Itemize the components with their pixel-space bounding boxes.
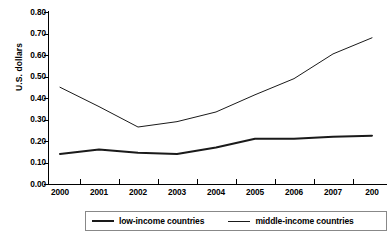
x-axis-tick-label: 2006 [274,187,314,198]
x-axis-tick-label: 2007 [313,187,353,198]
y-axis-tick-label: 0.50 [14,72,46,81]
x-axis-tick-label: 2004 [196,187,236,198]
series-line [60,136,372,154]
series-line [60,38,372,127]
x-axis-tick-label: 2000 [40,187,80,198]
x-axis-tick-label: 2001 [79,187,119,198]
y-axis-tick-label: 0.40 [14,94,46,103]
x-axis-tick-label: 200 [352,187,387,198]
legend-line-swatch [228,221,250,222]
y-axis-tick-label: 0.60 [14,51,46,60]
chart-legend[interactable]: low-income countriesmiddle-income countr… [85,211,387,231]
y-axis-tick-label: 0.70 [14,29,46,38]
x-axis-tick-label: 2003 [157,187,197,198]
x-axis-tick-label: 2005 [235,187,275,198]
legend-entry[interactable]: low-income countries [92,216,204,226]
y-axis-tick-labels: 0.800.700.600.500.400.300.200.100.00 [14,0,46,190]
legend-line-swatch [92,220,114,222]
x-axis-tick-labels: 20002001200220032004200520062007200 [48,187,387,201]
legend-label: middle-income countries [255,216,353,226]
y-axis-tick [44,184,48,185]
plot-area [48,12,387,184]
y-axis-tick-label: 0.80 [14,8,46,17]
y-axis-tick-label: 0.10 [14,158,46,167]
x-axis-tick-label: 2002 [118,187,158,198]
y-axis-tick-label: 0.30 [14,115,46,124]
y-axis-tick-label: 0.20 [14,137,46,146]
x-axis-line [48,184,387,185]
legend-entry[interactable]: middle-income countries [228,216,353,226]
series-lines [48,12,387,184]
line-chart-figure: U.S. dollars 0.800.700.600.500.400.300.2… [0,0,387,243]
legend-label: low-income countries [119,216,204,226]
